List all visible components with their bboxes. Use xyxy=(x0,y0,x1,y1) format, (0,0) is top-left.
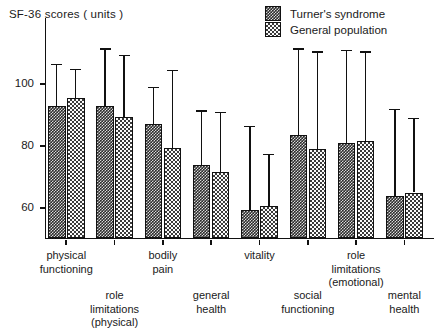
bar-general xyxy=(357,141,375,238)
bar-turners xyxy=(48,106,66,238)
error-bar-line xyxy=(56,64,57,106)
category-label-line: (physical) xyxy=(60,316,170,330)
error-bar-line xyxy=(346,50,347,143)
bar-turners xyxy=(386,196,404,238)
error-bar-cap xyxy=(360,51,371,52)
category-label-line: role xyxy=(301,249,411,263)
bar-general xyxy=(405,193,423,239)
error-bar-line xyxy=(153,87,154,124)
error-bar-line xyxy=(365,51,366,141)
category-label: rolelimitations(physical) xyxy=(60,289,170,330)
y-tick xyxy=(40,145,45,146)
error-bar-cap xyxy=(263,154,274,155)
category-label: socialfunctioning xyxy=(253,289,363,316)
error-bar-line xyxy=(268,154,269,207)
x-tick xyxy=(114,240,116,245)
error-bar-cap xyxy=(215,112,226,113)
y-tick-label: 100 xyxy=(8,77,34,89)
category-label-line: limitations xyxy=(301,263,411,277)
error-bar-line xyxy=(201,110,202,164)
chart-legend: Turner's syndrome General population xyxy=(265,6,387,38)
x-tick xyxy=(307,240,309,245)
bar-general xyxy=(67,98,85,238)
category-label-line: role xyxy=(60,289,170,303)
x-tick xyxy=(259,240,261,245)
category-label-line: vitality xyxy=(204,249,314,263)
bar-turners xyxy=(96,106,114,238)
error-bar-cap xyxy=(408,118,419,119)
category-label-line: health xyxy=(156,303,266,317)
axis-title: SF-36 scores ( units ) xyxy=(9,8,123,20)
error-bar-line xyxy=(413,118,414,192)
category-label-line: (emotional) xyxy=(301,276,411,290)
y-tick xyxy=(40,83,45,84)
chart-figure: SF-36 scores ( units ) Turner's syndrome… xyxy=(0,0,441,335)
error-bar-cap xyxy=(100,48,111,49)
error-bar-line xyxy=(172,70,173,148)
category-label: generalhealth xyxy=(156,289,266,316)
error-bar-cap xyxy=(70,69,81,70)
error-bar-line xyxy=(394,109,395,196)
category-label-line: general xyxy=(156,289,266,303)
legend-item-turners: Turner's syndrome xyxy=(265,6,387,21)
category-label-line: health xyxy=(349,303,441,317)
error-bar-cap xyxy=(244,126,255,127)
error-bar-line xyxy=(75,69,76,98)
bar-general xyxy=(260,206,278,238)
category-label: rolelimitations(emotional) xyxy=(301,249,411,290)
category-label: physicalfunctioning xyxy=(11,249,121,276)
error-bar-line xyxy=(249,126,250,210)
legend-swatch-turners-icon xyxy=(265,6,281,21)
y-axis xyxy=(45,18,46,239)
category-label-line: functioning xyxy=(253,303,363,317)
category-label-line: physical xyxy=(11,249,121,263)
x-tick xyxy=(162,240,164,245)
error-bar-cap xyxy=(167,70,178,71)
category-label-line: social xyxy=(253,289,363,303)
legend-label-general: General population xyxy=(290,24,387,36)
category-label-line: mental xyxy=(349,289,441,303)
error-bar-line xyxy=(220,112,221,172)
category-label-line: limitations xyxy=(60,303,170,317)
x-tick xyxy=(404,240,406,245)
bar-turners xyxy=(338,143,356,238)
error-bar-cap xyxy=(51,64,62,65)
x-tick xyxy=(65,240,67,245)
bar-turners xyxy=(290,135,308,238)
bar-general xyxy=(309,149,327,238)
error-bar-cap xyxy=(119,55,130,56)
y-tick-label: 80 xyxy=(8,139,34,151)
bar-turners xyxy=(145,124,163,238)
bar-turners xyxy=(193,165,211,238)
category-label-line: functioning xyxy=(11,263,121,277)
error-bar-line xyxy=(317,51,318,149)
legend-label-turners: Turner's syndrome xyxy=(290,8,385,20)
y-tick-label: 60 xyxy=(8,201,34,213)
category-label: bodilypain xyxy=(108,249,218,276)
x-axis xyxy=(45,238,434,239)
category-label: mentalhealth xyxy=(349,289,441,316)
bar-general xyxy=(115,117,133,238)
x-tick xyxy=(210,240,212,245)
category-label-line: pain xyxy=(108,263,218,277)
legend-swatch-general-icon xyxy=(265,22,281,37)
error-bar-cap xyxy=(312,51,323,52)
bar-turners xyxy=(241,210,259,238)
bar-general xyxy=(212,172,230,238)
error-bar-cap xyxy=(341,50,352,51)
error-bar-line xyxy=(298,48,299,135)
category-label-line: bodily xyxy=(108,249,218,263)
bar-general xyxy=(164,148,182,238)
error-bar-cap xyxy=(389,109,400,110)
x-tick xyxy=(355,240,357,245)
legend-item-general: General population xyxy=(265,22,387,37)
error-bar-line xyxy=(123,55,124,117)
error-bar-line xyxy=(104,48,105,105)
y-tick xyxy=(40,207,45,208)
error-bar-cap xyxy=(148,87,159,88)
error-bar-cap xyxy=(293,48,304,49)
error-bar-cap xyxy=(196,110,207,111)
category-label: vitality xyxy=(204,249,314,263)
